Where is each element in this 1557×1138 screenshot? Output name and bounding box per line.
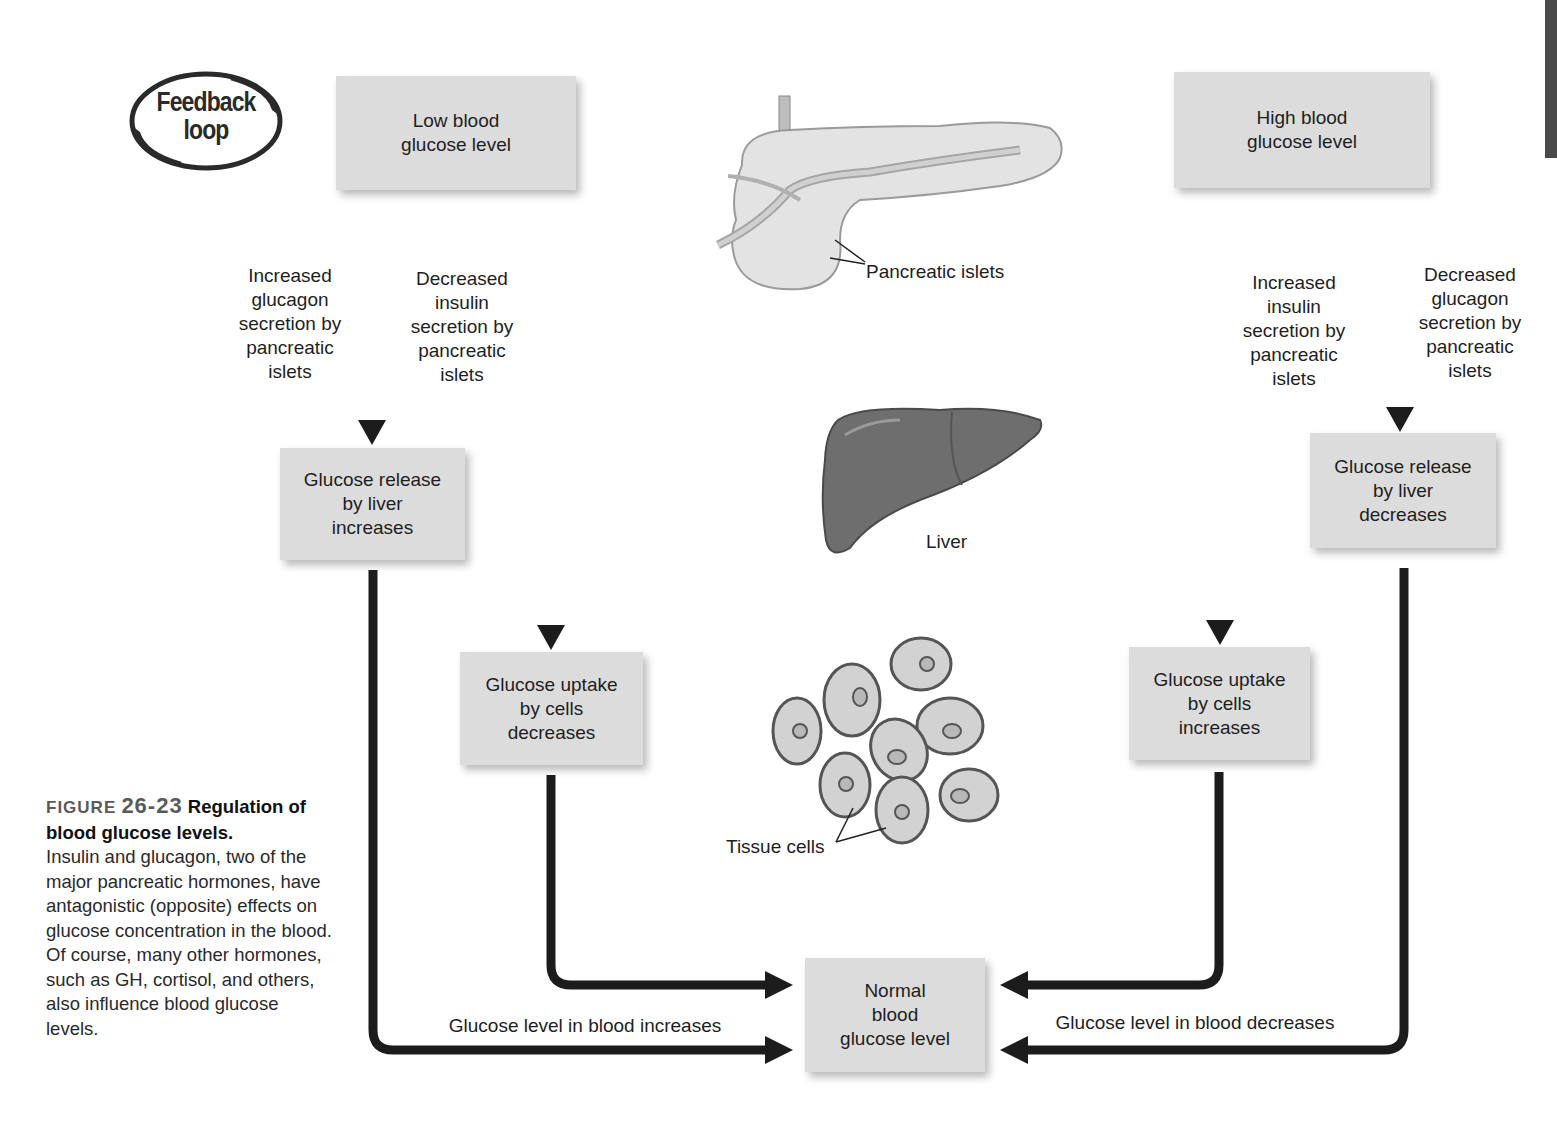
label-decreased-glucagon: Decreased glucagon secretion by pancreat… bbox=[1400, 263, 1540, 383]
label-blood-decreases: Glucose level in blood decreases bbox=[1040, 1011, 1350, 1035]
liver-release-increases-box: Glucose release by liver increases bbox=[280, 448, 465, 560]
label-decreased-insulin: Decreased insulin secretion by pancreati… bbox=[392, 267, 532, 387]
figure-body: Insulin and glucagon, two of the major p… bbox=[46, 845, 336, 1041]
arrow-uptake-inc-to-normal bbox=[1022, 772, 1219, 985]
figure-caption: FIGURE 26-23 Regulation of blood glucose… bbox=[46, 794, 336, 1041]
liver-release-decreases-box: Glucose release by liver decreases bbox=[1310, 433, 1496, 548]
cell-uptake-increases-box: Glucose uptake by cells increases bbox=[1129, 647, 1310, 760]
cell-uptake-decreases-box: Glucose uptake by cells decreases bbox=[460, 652, 643, 765]
label-increased-insulin: Increased insulin secretion by pancreati… bbox=[1224, 271, 1364, 391]
label-increased-glucagon: Increased glucagon secretion by pancreat… bbox=[220, 264, 360, 384]
label-blood-increases: Glucose level in blood increases bbox=[430, 1014, 740, 1038]
normal-glucose-box: Normal blood glucose level bbox=[805, 958, 985, 1072]
figure-word: FIGURE bbox=[46, 798, 116, 817]
pancreatic-islets-label: Pancreatic islets bbox=[866, 260, 1016, 284]
high-glucose-box: High blood glucose level bbox=[1174, 72, 1430, 188]
low-glucose-box: Low blood glucose level bbox=[336, 76, 576, 190]
figure-number: 26-23 bbox=[121, 793, 182, 818]
liver-label: Liver bbox=[926, 530, 976, 554]
tissue-cells-label: Tissue cells bbox=[726, 835, 846, 859]
arrow-uptake-to-normal bbox=[551, 775, 770, 985]
arrow-release-to-normal bbox=[373, 570, 770, 1050]
